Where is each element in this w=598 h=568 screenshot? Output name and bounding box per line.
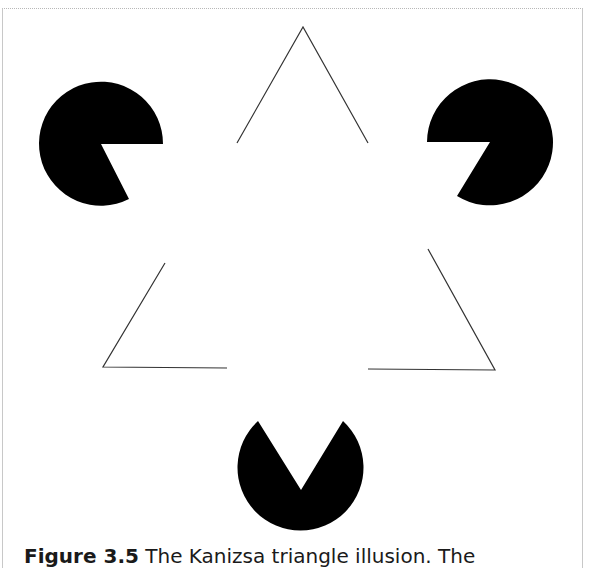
caption-label: Figure 3.5	[24, 544, 139, 568]
pacman-bottom	[237, 421, 363, 531]
outline-triangle	[103, 27, 495, 370]
outline-left-corner	[103, 263, 227, 368]
pacman-top-right	[427, 79, 553, 205]
outline-right-corner	[368, 249, 495, 370]
figure-caption: Figure 3.5 The Kanizsa triangle illusion…	[24, 544, 584, 568]
outline-apex	[237, 27, 368, 143]
caption-text: The Kanizsa triangle illusion. The	[145, 544, 475, 568]
pacman-top-left	[39, 82, 163, 206]
